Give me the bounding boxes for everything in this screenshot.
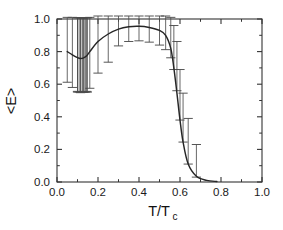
y-tick-label: 0.4 xyxy=(34,111,51,123)
x-axis-title-text: T/T xyxy=(148,203,170,219)
y-tick-label: 0.6 xyxy=(34,78,50,90)
order-parameter-vs-temperature-chart: 0.00.20.40.60.81.0 0.00.20.40.60.81.0 T/… xyxy=(0,0,283,230)
x-tick-label: 0.8 xyxy=(213,186,229,198)
y-tick-label: 1.0 xyxy=(34,13,50,25)
y-tick-label: 0.0 xyxy=(34,176,50,188)
x-axis-title-subscript: c xyxy=(173,211,178,222)
y-axis-title: <E> xyxy=(3,88,19,115)
x-tick-label: 0.4 xyxy=(131,186,148,198)
y-tick-label: 0.2 xyxy=(34,143,50,155)
chart-figure: 0.00.20.40.60.81.0 0.00.20.40.60.81.0 T/… xyxy=(0,0,283,230)
x-tick-label: 0.2 xyxy=(90,186,106,198)
y-axis-title-text: <E> xyxy=(3,88,19,115)
x-tick-label: 0.6 xyxy=(172,186,188,198)
x-tick-label: 0.0 xyxy=(49,186,65,198)
x-tick-label: 1.0 xyxy=(254,186,270,198)
y-tick-label: 0.8 xyxy=(34,46,50,58)
